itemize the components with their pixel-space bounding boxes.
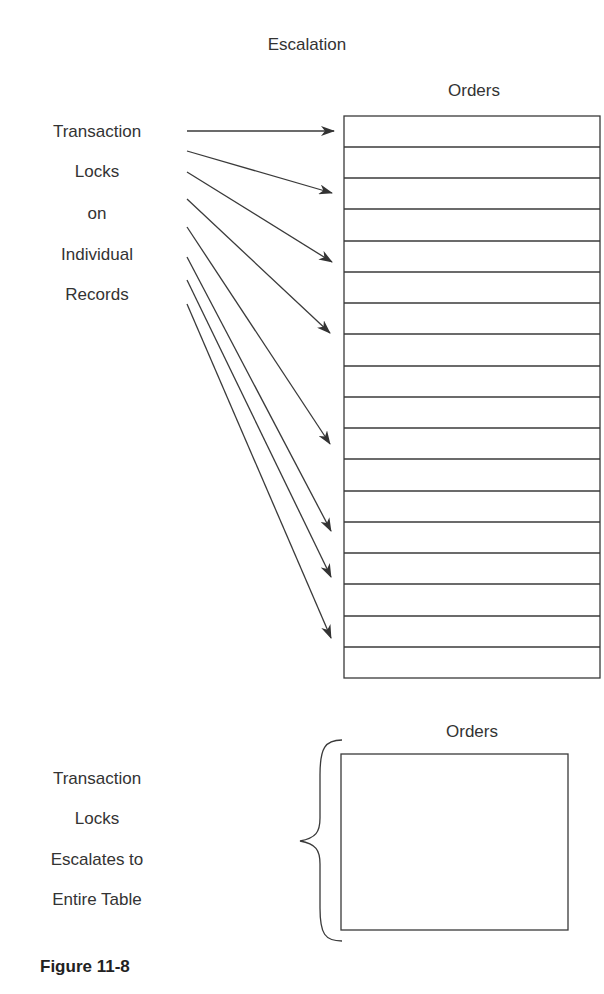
arrow-icon [187,172,332,262]
curly-brace-icon [300,740,342,941]
arrow-icon [187,280,331,577]
arrow-icon [187,151,332,193]
arrow-icon [187,227,330,444]
arrow-icon [187,304,331,638]
orders-table-rows [344,116,600,678]
diagram-graphics [0,0,604,994]
arrow-icon [187,257,331,531]
lock-arrows [187,131,334,638]
arrow-icon [187,199,330,333]
orders-table-escalated [341,754,568,930]
